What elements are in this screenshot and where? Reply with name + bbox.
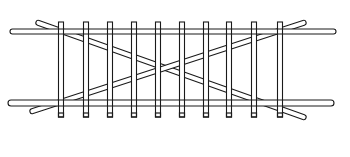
rung: [204, 22, 209, 117]
ladder-frame-drawing: [0, 0, 350, 157]
rung: [278, 22, 283, 117]
rung: [108, 22, 113, 117]
rung: [84, 22, 89, 117]
bottom-rail: [8, 100, 334, 106]
rung: [252, 22, 257, 117]
rung: [180, 22, 185, 117]
rung: [59, 22, 64, 117]
diagram-canvas: Timber ladder frame with cross bracing: [0, 0, 350, 157]
rung: [156, 22, 161, 117]
rung: [227, 22, 232, 117]
rung: [132, 22, 137, 117]
